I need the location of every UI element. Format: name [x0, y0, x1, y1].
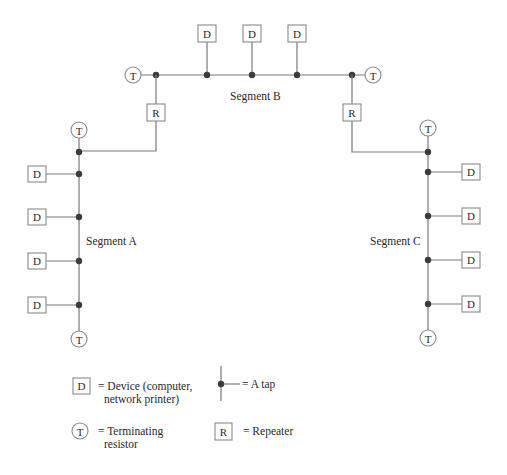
- tap-icon: [76, 171, 82, 177]
- device-c1: D: [462, 164, 480, 180]
- tap-icon: [425, 213, 431, 219]
- segment-c: D D D D T T Segment C: [370, 120, 480, 346]
- legend-terminator-text: = Terminating: [98, 425, 163, 438]
- repeater-right: R: [343, 75, 428, 152]
- svg-text:T: T: [76, 125, 83, 137]
- svg-text:D: D: [467, 298, 475, 310]
- tap-icon: [425, 257, 431, 263]
- svg-text:D: D: [33, 211, 41, 223]
- segment-b-label: Segment B: [230, 90, 281, 103]
- svg-text:D: D: [33, 255, 41, 267]
- terminator-a-bottom: T: [71, 331, 87, 347]
- device-a1: D: [28, 166, 46, 182]
- device-b1: D: [198, 25, 216, 42]
- svg-text:T: T: [76, 334, 83, 346]
- svg-text:D: D: [293, 28, 301, 40]
- terminator-a-top: T: [71, 122, 87, 138]
- device-c2: D: [462, 208, 480, 224]
- svg-text:D: D: [78, 380, 86, 392]
- device-b3: D: [288, 25, 306, 42]
- terminator-c-bottom: T: [420, 330, 436, 346]
- tap-icon: [249, 72, 255, 78]
- svg-text:T: T: [77, 426, 84, 438]
- segment-a: D D D D T T Segment A: [28, 122, 137, 347]
- legend-device: D = Device (computer, network printer): [73, 378, 193, 406]
- svg-text:R: R: [152, 107, 160, 119]
- legend-repeater: R = Repeater: [215, 423, 293, 440]
- device-c4: D: [462, 296, 480, 312]
- segment-a-label: Segment A: [86, 235, 137, 248]
- tap-icon: [425, 169, 431, 175]
- tap-icon: [425, 149, 431, 155]
- tap-icon: [204, 72, 210, 78]
- svg-text:D: D: [467, 254, 475, 266]
- repeater-left: R: [79, 75, 165, 151]
- legend-tap-text: = A tap: [242, 378, 276, 391]
- tap-icon: [76, 302, 82, 308]
- terminator-c-top: T: [420, 120, 436, 136]
- tap-icon: [76, 149, 82, 155]
- bus-network-diagram: D D D T T Segment B R R: [0, 0, 507, 475]
- segment-b: D D D T T Segment B: [125, 25, 381, 103]
- svg-text:D: D: [467, 210, 475, 222]
- svg-text:R: R: [220, 426, 228, 438]
- svg-text:T: T: [425, 333, 432, 345]
- svg-text:D: D: [248, 28, 256, 40]
- tap-icon: [425, 301, 431, 307]
- terminator-b-right: T: [365, 67, 381, 83]
- tap-icon: [294, 72, 300, 78]
- legend-terminator-text-2: resistor: [104, 438, 138, 450]
- legend-device-text-2: network printer): [104, 393, 179, 406]
- terminator-b-left: T: [125, 67, 141, 83]
- svg-text:T: T: [130, 70, 137, 82]
- legend-terminator: T = Terminating resistor: [72, 423, 163, 450]
- device-a3: D: [28, 253, 46, 269]
- legend-device-text: = Device (computer,: [98, 380, 193, 393]
- tap-icon: [76, 214, 82, 220]
- device-c3: D: [462, 252, 480, 268]
- tap-icon: [76, 258, 82, 264]
- tap-icon: [218, 381, 224, 387]
- svg-text:D: D: [33, 299, 41, 311]
- legend: D = Device (computer, network printer) =…: [72, 366, 293, 450]
- legend-tap: = A tap: [218, 366, 276, 401]
- svg-text:D: D: [33, 168, 41, 180]
- svg-text:T: T: [370, 70, 377, 82]
- device-a2: D: [28, 209, 46, 225]
- svg-text:D: D: [203, 28, 211, 40]
- device-b2: D: [243, 25, 261, 42]
- segment-c-label: Segment C: [370, 235, 421, 248]
- svg-text:T: T: [425, 123, 432, 135]
- legend-repeater-text: = Repeater: [243, 425, 293, 438]
- svg-text:R: R: [348, 107, 356, 119]
- device-a4: D: [28, 297, 46, 313]
- svg-text:D: D: [467, 166, 475, 178]
